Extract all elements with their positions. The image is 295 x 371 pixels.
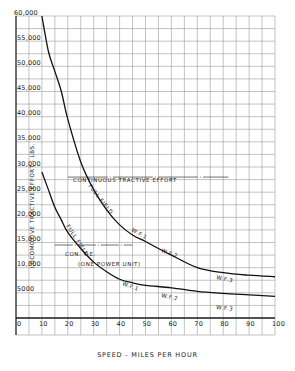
con-te-label: CON. T.E.	[65, 251, 96, 257]
y-tick-label: 35,000	[17, 134, 41, 142]
y-tick-label: 40,000	[17, 109, 41, 117]
y-tick-label: 55,000	[17, 34, 41, 42]
upper-full-field-label: FULL FIELD	[87, 183, 114, 216]
upper-wf3-label: W.F.3	[216, 274, 234, 283]
continuous-te-label: CONTINUOUS TRACTIVE EFFORT	[73, 177, 177, 183]
lower-wf1-label: W.F.1	[122, 280, 140, 291]
x-tick-label: 40	[117, 320, 126, 328]
x-tick-label: 50	[143, 320, 152, 328]
grid	[16, 16, 275, 335]
x-tick-label: 70	[194, 320, 203, 328]
x-tick-label: 90	[246, 320, 255, 328]
x-tick-labels: 0102030405060708090100	[17, 320, 285, 328]
y-tick-label: 45,000	[17, 84, 41, 92]
y-tick-labels: 500010,00015,00020,00025,00030,00035,000…	[14, 9, 41, 294]
lower-wf3-label: W.F.3	[216, 304, 234, 312]
x-axis-label: SPEED - MILES PER HOUR	[0, 351, 295, 359]
x-tick-label: 20	[65, 320, 74, 328]
lower-wf2-label: W.F.2	[161, 292, 179, 301]
y-tick-label: 5000	[17, 285, 34, 293]
x-tick-label: 100	[272, 320, 285, 328]
y-tick-label: 60,000	[14, 9, 38, 17]
x-tick-label: 60	[168, 320, 177, 328]
y-tick-label: 50,000	[17, 59, 41, 67]
x-tick-label: 80	[220, 320, 229, 328]
x-tick-label: 10	[39, 320, 48, 328]
x-tick-label: 0	[17, 320, 21, 328]
upper-wf2-label: W.F.2	[161, 247, 179, 258]
x-tick-label: 30	[91, 320, 100, 328]
one-power-unit-label: (ONE POWER UNIT)	[78, 261, 141, 267]
y-axis-label: LOCOMOTIVE TRACTIVE EFFORT - LBS.	[29, 143, 35, 268]
tractive-effort-chart: 500010,00015,00020,00025,00030,00035,000…	[0, 0, 295, 371]
